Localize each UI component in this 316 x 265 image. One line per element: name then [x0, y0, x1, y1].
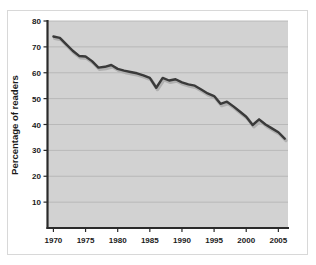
x-tick-label-2005: 2005 [269, 236, 287, 245]
y-tick-label-80: 80 [32, 17, 41, 26]
y-tick-label-60: 60 [32, 69, 41, 78]
x-tick-label-1995: 1995 [205, 236, 223, 245]
x-tick-label-1980: 1980 [109, 236, 127, 245]
x-tick-label-1990: 1990 [173, 236, 191, 245]
x-tick-label-2000: 2000 [237, 236, 255, 245]
y-axis-title: Percentage of readers [9, 75, 20, 175]
x-tick-label-1970: 1970 [45, 236, 63, 245]
readership-line-chart: 1020304050607080 19701975198019851990199… [0, 0, 316, 265]
x-tick-label-1975: 1975 [77, 236, 95, 245]
y-tick-label-50: 50 [32, 95, 41, 104]
y-tick-label-40: 40 [32, 121, 41, 130]
x-tick-label-1985: 1985 [141, 236, 159, 245]
y-tick-label-30: 30 [32, 146, 41, 155]
x-axis-ticks: 19701975198019851990199520002005 [45, 228, 288, 245]
y-axis-ticks: 1020304050607080 [32, 17, 47, 207]
y-tick-label-10: 10 [32, 198, 41, 207]
y-tick-label-70: 70 [32, 43, 41, 52]
y-tick-label-20: 20 [32, 172, 41, 181]
